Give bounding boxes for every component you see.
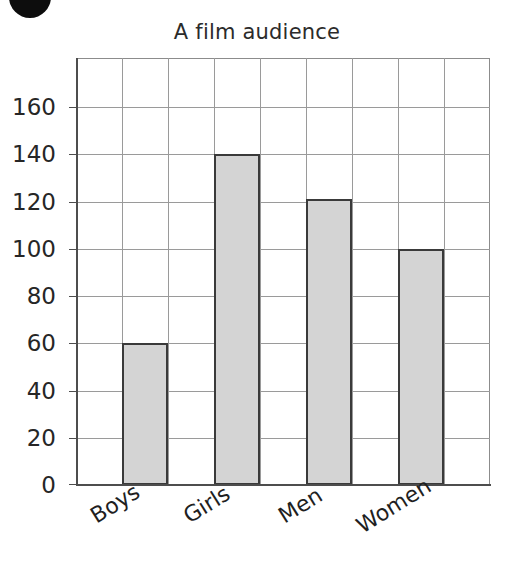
chart-figure: A film audience 0 20 40 60 80 100 120 14…	[0, 0, 514, 583]
gridline-x-2	[168, 58, 169, 485]
y-tick-label-80: 80	[27, 283, 56, 309]
gridline-x-6	[352, 58, 353, 485]
x-tick-label-boys: Boys	[86, 479, 144, 528]
y-tick-label-20: 20	[27, 425, 56, 451]
x-tick-label-men: Men	[274, 482, 327, 528]
y-tick-mark-20	[69, 438, 76, 439]
x-tick-label-girls: Girls	[179, 481, 234, 529]
plot-area	[76, 58, 490, 485]
black-circle-marker-icon	[9, 0, 51, 18]
x-axis-labels: Boys Girls Men Women	[0, 485, 514, 583]
y-tick-label-60: 60	[27, 330, 56, 356]
gridline-y-140	[76, 154, 490, 155]
gridline-x-8	[444, 58, 445, 485]
y-tick-label-40: 40	[27, 378, 56, 404]
y-axis-line	[76, 58, 78, 486]
bar-girls[interactable]	[214, 154, 260, 485]
gridline-y-120	[76, 202, 490, 203]
bar-boys[interactable]	[122, 343, 168, 485]
y-tick-label-140: 140	[12, 141, 56, 167]
bar-men[interactable]	[306, 199, 352, 485]
y-tick-mark-120	[69, 202, 76, 203]
gridline-y-160	[76, 107, 490, 108]
y-tick-mark-60	[69, 343, 76, 344]
gridline-x-4	[260, 58, 261, 485]
y-axis-labels: 0 20 40 60 80 100 120 140 160	[0, 58, 66, 485]
y-tick-label-100: 100	[12, 236, 56, 262]
bar-women[interactable]	[398, 249, 444, 485]
y-tick-mark-100	[69, 249, 76, 250]
y-tick-label-160: 160	[12, 94, 56, 120]
y-tick-mark-160	[69, 107, 76, 108]
y-tick-mark-80	[69, 296, 76, 297]
y-tick-label-120: 120	[12, 189, 56, 215]
chart-title: A film audience	[0, 20, 514, 44]
y-tick-mark-40	[69, 391, 76, 392]
y-tick-mark-140	[69, 154, 76, 155]
